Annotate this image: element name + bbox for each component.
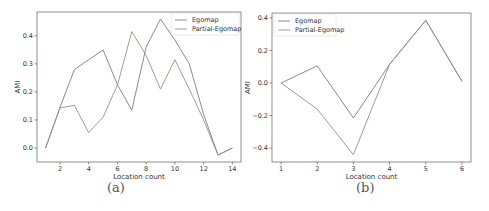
x-tick-label: 10	[171, 165, 179, 173]
x-tick-label: 14	[228, 165, 236, 173]
series-line-partial-egomap	[46, 32, 233, 155]
x-tick-label: 1	[279, 165, 283, 173]
y-tick-label: 0.2	[258, 47, 268, 55]
x-tick-label: 2	[58, 165, 62, 173]
series-line-partial-egomap	[281, 20, 462, 154]
x-tick-label: 3	[351, 165, 355, 173]
x-tick-label: 4	[87, 165, 91, 173]
caption-b: (b)	[356, 180, 374, 195]
x-tick-label: 5	[424, 165, 428, 173]
x-tick-label: 6	[115, 165, 119, 173]
chart-panel-b: 123456−0.4−0.20.00.20.4Location countAMI…	[245, 0, 489, 180]
legend-label: Partial-Egomap	[192, 25, 241, 33]
x-axis-label: Location count	[346, 173, 398, 180]
x-tick-label: 8	[144, 165, 148, 173]
x-tick-label: 4	[388, 165, 392, 173]
legend-label: Partial-Egomap	[295, 26, 344, 34]
series-line-egomap	[46, 19, 233, 155]
x-tick-label: 12	[200, 165, 208, 173]
y-axis-label: AMI	[245, 81, 252, 94]
caption-a: (a)	[107, 180, 125, 195]
x-axis-label: Location count	[113, 173, 165, 180]
line-chart-a: 24681012140.00.10.20.30.4Location countA…	[0, 0, 245, 180]
chart-panel-a: 24681012140.00.10.20.30.4Location countA…	[0, 0, 245, 180]
y-tick-label: 0.0	[23, 144, 33, 152]
y-tick-label: 0.1	[23, 116, 33, 124]
line-chart-b: 123456−0.4−0.20.00.20.4Location countAMI…	[245, 0, 489, 180]
x-tick-label: 2	[315, 165, 319, 173]
y-axis-label: AMI	[14, 81, 22, 94]
y-tick-label: −0.2	[252, 112, 268, 120]
legend-label: Egomap	[295, 17, 322, 25]
x-tick-label: 6	[460, 165, 464, 173]
y-tick-label: 0.0	[258, 79, 268, 87]
y-tick-label: −0.4	[252, 144, 268, 152]
y-tick-label: 0.2	[23, 88, 33, 96]
y-tick-label: 0.3	[23, 60, 33, 68]
y-tick-label: 0.4	[258, 14, 268, 22]
y-tick-label: 0.4	[23, 32, 33, 40]
legend-label: Egomap	[192, 16, 219, 24]
